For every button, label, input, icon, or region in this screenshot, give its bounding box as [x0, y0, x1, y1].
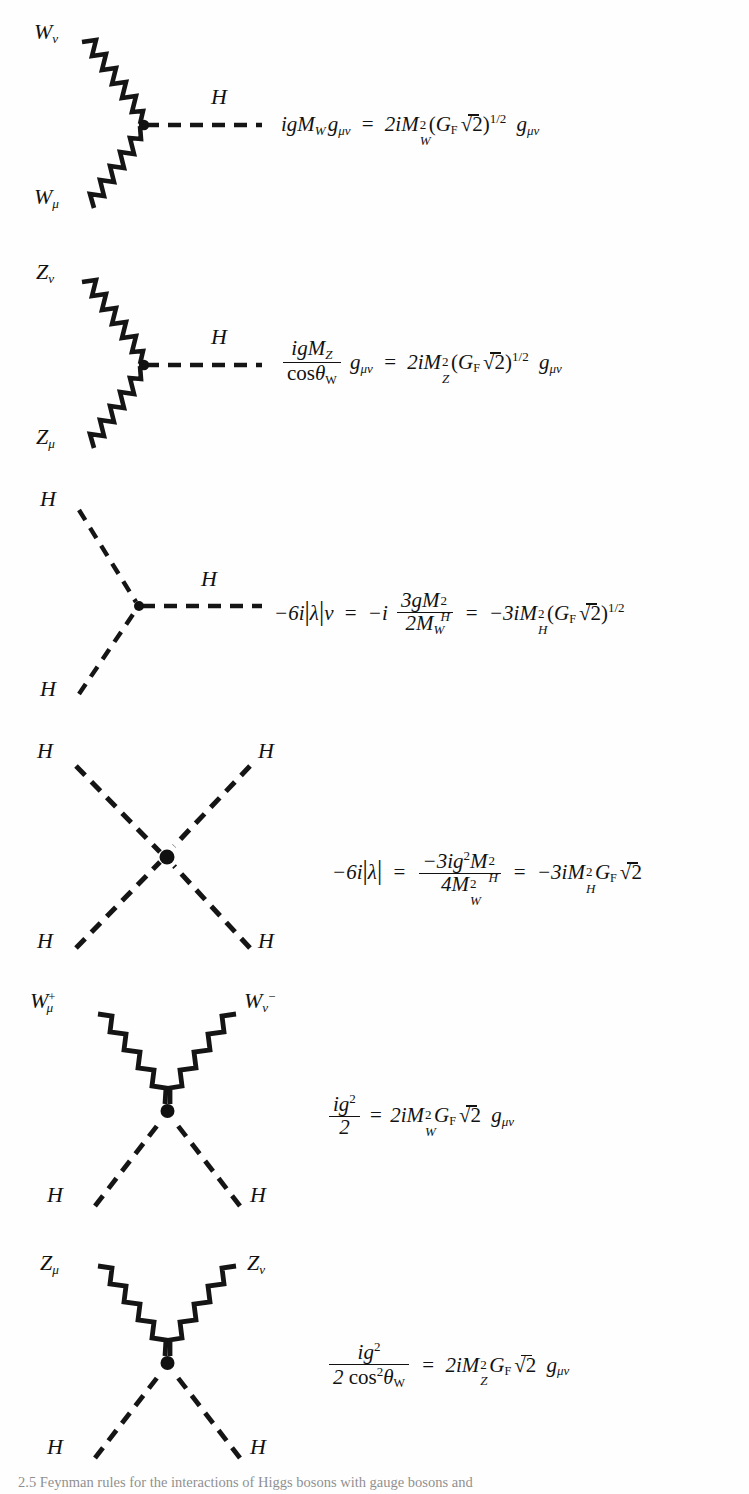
leg-label-z-mu: Zμ — [36, 426, 55, 450]
wavy-line-upper-right — [170, 1014, 236, 1104]
wavy-line-lower — [90, 366, 141, 448]
leg-label-higgs-out: H — [201, 568, 217, 590]
equation-hzz: igMZ cosθW gμν = 2iM2Z(GF√2)1/2 gμν — [281, 340, 562, 388]
dashed-line-lower-right — [175, 1122, 240, 1206]
dashed-line-upper-left — [76, 766, 160, 852]
figure-caption: 2.5 Feynman rules for the interactions o… — [18, 1474, 738, 1494]
dashed-line-lower-left — [79, 610, 136, 694]
leg-label-w-mu: Wμ — [34, 186, 59, 210]
leg-label-higgs-lower-left: H — [37, 930, 53, 952]
fraction-ig2-2cos2theta: ig2 2 cos2θW — [329, 1340, 409, 1389]
fraction-ig2-2: ig2 2 — [329, 1092, 360, 1138]
fraction-igmz-costheta: igMZ cosθW — [283, 338, 341, 386]
diagram-quartic-higgs: H H H H — [0, 726, 320, 986]
equation-hhhh: −6i|λ| = −3ig2M2H 4M2W = −3iM2HGF√2 — [332, 851, 642, 897]
wavy-line-upper-right — [170, 1266, 236, 1356]
vertex-dot — [161, 1356, 175, 1370]
diagram-higgs-w-w: Wν Wμ H — [0, 0, 300, 250]
dashed-line-lower-left — [76, 862, 160, 948]
wavy-line-upper — [82, 280, 143, 364]
dashed-line-upper-left — [79, 510, 136, 602]
equation-hww: igMWgμν = 2iM2W(GF√2)1/2 gμν — [281, 112, 539, 137]
vertex-dot — [139, 120, 149, 130]
leg-label-higgs-lower-left: H — [47, 1436, 63, 1458]
leg-label-higgs-upper: H — [40, 488, 56, 510]
dashed-line-upper-right — [174, 766, 250, 846]
leg-label-z-mu: Zμ — [40, 1252, 59, 1276]
leg-label-higgs-lower-right: H — [250, 1436, 266, 1458]
wavy-line-upper-left — [98, 1014, 166, 1104]
leg-label-w-plus-mu: W+μ — [30, 990, 53, 1014]
leg-label-w-minus-nu: Wν− — [244, 990, 275, 1014]
vertex-dot — [139, 360, 149, 370]
leg-label-higgs: H — [211, 326, 227, 348]
diagram-higgs-z-z: Zν Zμ H — [0, 240, 300, 490]
dashed-line-lower-left — [95, 1374, 160, 1458]
leg-label-z-nu: Zν — [36, 261, 54, 285]
leg-label-higgs-lower-right: H — [258, 930, 274, 952]
leg-label-higgs-lower-right: H — [250, 1184, 266, 1206]
diagram-z-z-higgs-higgs: Zμ Zν H H — [0, 1232, 320, 1494]
fraction-3ig2mh2-4mw2: −3ig2M2H 4M2W — [419, 849, 501, 895]
equation-wwhh: ig2 2 = 2iM2WGF√2 gμν — [327, 1094, 514, 1140]
dashed-line-lower-right — [175, 1374, 240, 1458]
vertex-dot — [161, 1104, 175, 1118]
equation-hhh: −6i|λ|v = −i 3gM2H 2MW = −3iM2H(GF√2)1/2 — [274, 592, 625, 638]
leg-label-z-nu: Zν — [247, 1252, 265, 1276]
leg-label-higgs-lower: H — [40, 678, 56, 700]
diagram-w-w-higgs-higgs: W+μ Wν− H H — [0, 980, 320, 1240]
leg-label-higgs-upper-left: H — [37, 740, 53, 762]
leg-label-higgs: H — [211, 86, 227, 108]
vertex-dot — [160, 850, 175, 865]
diagram-triple-higgs: H H H — [0, 488, 300, 738]
wavy-line-upper-left — [98, 1266, 166, 1356]
vertex-dot — [134, 601, 144, 611]
dashed-line-lower-right — [174, 866, 250, 948]
fraction-3gmh2-2mw: 3gM2H 2MW — [397, 590, 453, 636]
leg-label-higgs-upper-right: H — [258, 740, 274, 762]
dashed-line-lower-left — [95, 1122, 160, 1206]
equation-zzhh: ig2 2 cos2θW = 2iM2ZGF√2 gμν — [327, 1342, 569, 1391]
wavy-line-upper — [82, 40, 143, 124]
leg-label-w-nu: Wν — [34, 21, 58, 45]
wavy-line-lower — [90, 126, 141, 208]
page-canvas: Wν Wμ H igMWgμν = 2iM2W(GF√2)1/2 gμν Zν … — [0, 0, 749, 1494]
leg-label-higgs-lower-left: H — [47, 1184, 63, 1206]
